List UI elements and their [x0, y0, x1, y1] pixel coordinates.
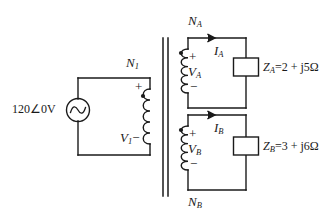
- circuit-diagram-canvas: 120∠0V N1 + V1− NA + VA − IA ZA=2 + j5Ω …: [0, 0, 335, 221]
- current-b-arrow: [208, 112, 215, 119]
- secondary-a-minus-sign: −: [190, 80, 197, 93]
- secondary-a-turns-label: NA: [188, 14, 202, 29]
- impedance-b-label: ZB=3 + j6Ω: [263, 140, 319, 154]
- secondary-b-polarity-dot: [179, 128, 183, 132]
- impedance-b-box: [234, 137, 259, 155]
- secondary-b-voltage-label: VB: [188, 142, 201, 157]
- current-a-arrow: [208, 35, 215, 42]
- transformer-core: [163, 38, 168, 196]
- secondary-b-turns-label: NB: [188, 195, 202, 210]
- secondary-b-current-label: IB: [214, 121, 224, 136]
- secondary-a-coil: [181, 49, 188, 93]
- secondary-a-plus-sign: +: [189, 50, 196, 63]
- polarity-dots: [141, 51, 183, 132]
- impedance-a-label: ZA=2 + j5Ω: [263, 61, 319, 75]
- primary-plus-sign: +: [135, 80, 142, 93]
- primary-polarity-dot: [141, 94, 145, 98]
- impedance-a-box: [234, 58, 259, 76]
- primary-turns-label: N1: [126, 56, 139, 71]
- secondary-b-minus-sign: −: [190, 157, 197, 170]
- secondary-a-polarity-dot: [179, 51, 183, 55]
- secondary-a-current-label: IA: [214, 44, 224, 59]
- source-voltage-label: 120∠0V: [12, 103, 56, 115]
- secondary-b-plus-sign: +: [189, 127, 196, 140]
- primary-voltage-label: V1−: [120, 131, 140, 146]
- secondary-b-coil: [181, 126, 188, 170]
- secondary-a-voltage-label: VA: [188, 65, 201, 80]
- ac-source-sine-icon: [71, 107, 86, 113]
- ac-source-symbol: [67, 99, 90, 122]
